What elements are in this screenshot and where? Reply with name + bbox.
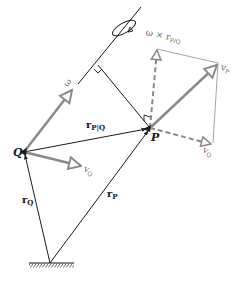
r-pq-label: rP|Q: [86, 119, 105, 132]
v-p-vector: [150, 65, 217, 128]
v-p-label: vP: [219, 62, 232, 75]
perpendicular-line: [94, 65, 150, 128]
omega-cross-r-label: ω × rP/Q: [145, 27, 182, 45]
point-p-label: P: [150, 131, 160, 144]
ground-support: [29, 263, 74, 268]
omega-label: ω: [61, 77, 73, 89]
parallelogram-lines: [157, 49, 218, 143]
v-q-vector-at-q: [24, 152, 81, 166]
point-p-marker: [143, 125, 151, 132]
r-pq-vector: [24, 129, 146, 152]
r-q-vector: [25, 155, 50, 263]
omega-cross-r-vector: [150, 50, 157, 128]
r-q-label: rQ: [22, 194, 33, 207]
r-p-label: rP: [107, 188, 118, 201]
omega-vector: [24, 90, 72, 152]
rotation-axis: [78, 7, 141, 84]
point-q-label: Q: [13, 146, 23, 159]
v-q-label-at-q: vQ: [81, 163, 96, 178]
v-q-label-at-p: vQ: [200, 144, 215, 159]
r-p-vector: [50, 131, 148, 263]
rigid-body-velocity-diagram: P Q rP|Q rQ rP ω vQ vQ vP ω × rP/Q: [0, 0, 248, 287]
